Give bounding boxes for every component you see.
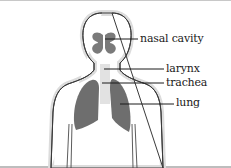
trachea-shape: [100, 64, 110, 104]
label-larynx: larynx: [166, 63, 200, 74]
left-arm-line: [67, 124, 72, 168]
nasal-cavity-shape: [92, 32, 116, 53]
left-lung-shape: [74, 80, 99, 130]
label-nasal-cavity: nasal cavity: [140, 33, 204, 44]
right-lung-shape: [110, 79, 131, 132]
right-arm-line: [132, 124, 137, 168]
label-lung: lung: [176, 97, 200, 108]
label-trachea: trachea: [166, 77, 207, 88]
